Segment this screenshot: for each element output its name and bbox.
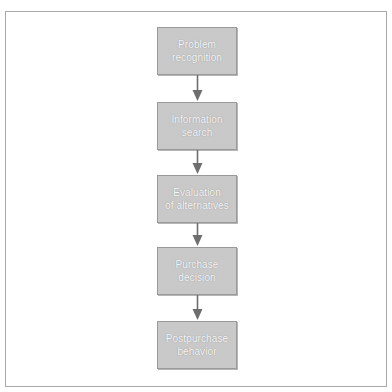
arrow-down-icon bbox=[192, 223, 203, 247]
step-problem-recognition: Problem recognition bbox=[157, 27, 237, 75]
arrow-down-icon bbox=[192, 150, 203, 175]
arrow-down-icon bbox=[192, 75, 203, 102]
step-evaluation-of-alternatives: Evaluation of alternatives bbox=[157, 175, 237, 223]
step-label: Postpurchase behavior bbox=[166, 332, 228, 358]
step-label: Evaluation of alternatives bbox=[165, 186, 229, 212]
arrow-down-icon bbox=[192, 295, 203, 321]
step-information-search: Information search bbox=[157, 102, 237, 150]
step-label: Purchase decision bbox=[175, 258, 218, 284]
step-postpurchase-behavior: Postpurchase behavior bbox=[157, 321, 237, 369]
step-purchase-decision: Purchase decision bbox=[157, 247, 237, 295]
step-label: Problem recognition bbox=[172, 38, 222, 64]
step-label: Information search bbox=[171, 113, 222, 139]
